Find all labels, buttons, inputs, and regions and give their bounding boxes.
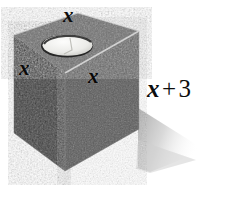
circular-hole	[41, 35, 93, 58]
figure-canvas: x x x x+3	[0, 0, 232, 197]
height-operator: +	[160, 75, 179, 102]
height-constant: 3	[179, 75, 192, 102]
label-front-edge-x: x	[88, 66, 99, 87]
label-left-face-x: x	[19, 58, 30, 79]
drop-shadow	[136, 108, 205, 173]
label-height-expression: x+3	[147, 76, 192, 101]
label-top-edge-x: x	[63, 5, 74, 26]
height-variable: x	[147, 75, 160, 102]
solid-figure-svg	[0, 0, 232, 197]
